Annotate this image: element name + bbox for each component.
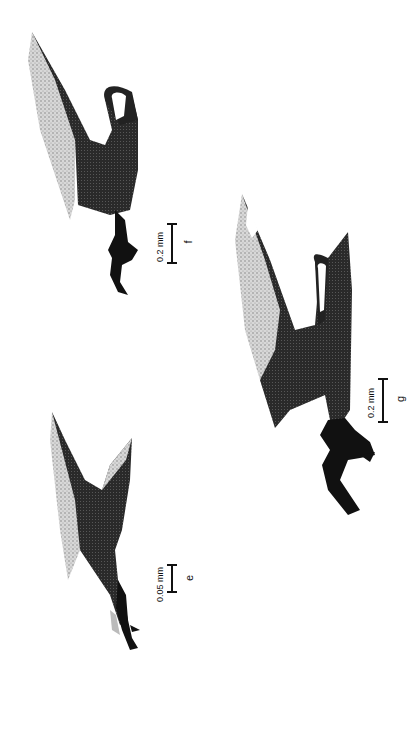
specimen-f-drawing: [20, 20, 150, 300]
panel-label-g: g: [394, 396, 406, 402]
figure: 0.05 mm e 0.2 mm f 0.2 mm g: [0, 0, 420, 738]
scale-bar-f: [166, 223, 178, 263]
scale-bar-g-label: 0.2 mm: [366, 388, 376, 418]
specimen-g-drawing: [220, 180, 390, 530]
scale-bar-f-label: 0.2 mm: [155, 232, 165, 262]
scale-bar-e: [166, 564, 178, 592]
scale-bar-e-label: 0.05 mm: [155, 567, 165, 602]
panel-label-e: e: [183, 575, 195, 581]
panel-label-f: f: [182, 240, 194, 243]
scale-bar-g: [377, 378, 389, 422]
specimen-e-drawing: [40, 380, 150, 660]
